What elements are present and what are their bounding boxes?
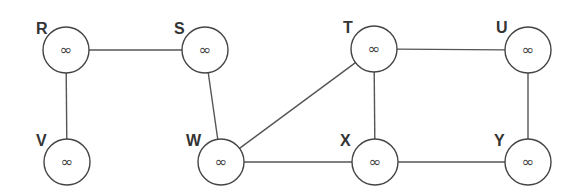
node-label: V	[36, 132, 47, 149]
node-distance-value: ∞	[61, 153, 74, 171]
edge-t-u	[397, 49, 505, 50]
node-distance-value: ∞	[369, 153, 382, 171]
node-distance-value: ∞	[215, 153, 228, 171]
node-distance-value: ∞	[199, 41, 212, 59]
edge-s-w	[208, 73, 217, 139]
node-r: ∞R	[36, 20, 89, 73]
node-label: S	[174, 20, 185, 37]
node-label: Y	[494, 132, 505, 149]
node-u: ∞U	[496, 19, 551, 73]
node-label: X	[340, 132, 351, 149]
node-label: R	[36, 20, 48, 37]
edge-t-x	[374, 72, 375, 139]
node-s: ∞S	[174, 20, 228, 73]
nodes-layer: ∞R∞S∞T∞U∞V∞W∞X∞Y	[36, 19, 551, 185]
node-distance-value: ∞	[522, 41, 535, 59]
edge-r-v	[66, 73, 67, 139]
node-v: ∞V	[36, 132, 90, 185]
node-y: ∞Y	[494, 132, 551, 185]
node-distance-value: ∞	[60, 41, 73, 59]
node-x: ∞X	[340, 132, 398, 185]
graph-diagram: ∞R∞S∞T∞U∞V∞W∞X∞Y	[0, 0, 583, 195]
node-label: U	[496, 19, 508, 36]
node-t: ∞T	[343, 19, 397, 72]
edges-layer	[66, 49, 528, 162]
node-distance-value: ∞	[522, 153, 535, 171]
node-label: T	[343, 19, 353, 36]
node-w: ∞W	[186, 132, 244, 185]
node-distance-value: ∞	[368, 40, 381, 58]
node-label: W	[186, 132, 202, 149]
edge-w-t	[240, 63, 356, 149]
